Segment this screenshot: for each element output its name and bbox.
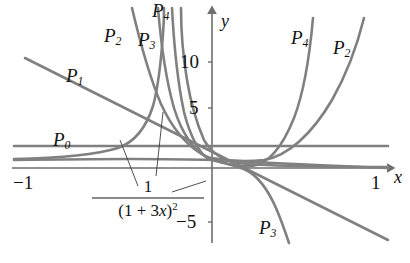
curve-label-P2-left: P2 bbox=[104, 26, 122, 48]
taylor-polynomial-figure: 10 5 −5 −1 1 x y P0 P1 P2 P3 P4 P2 P3 P4… bbox=[0, 0, 410, 263]
curve-P3-left bbox=[158, 8, 212, 159]
formula-denominator-prefix: (1 + 3 bbox=[118, 201, 159, 220]
formula-denominator-variable: x bbox=[159, 201, 167, 220]
curve-label-P2-right: P2 bbox=[333, 38, 351, 60]
x-axis-label: x bbox=[394, 168, 402, 186]
y-tick-label-10: 10 bbox=[180, 52, 199, 71]
function-formula: 1 (1 + 3x)2 bbox=[92, 178, 204, 219]
curve-label-P4-top: P4 bbox=[152, 1, 170, 23]
curve-label-P1: P1 bbox=[66, 66, 84, 88]
formula-denominator-exponent: 2 bbox=[172, 200, 177, 212]
x-tick-label-1: 1 bbox=[371, 173, 381, 192]
curve-label-P4-right: P4 bbox=[291, 28, 309, 50]
curve-near-axis-band bbox=[14, 159, 388, 168]
formula-numerator: 1 bbox=[92, 178, 204, 196]
curve-P3-right bbox=[212, 159, 289, 243]
y-tick-label-5: 5 bbox=[189, 98, 199, 117]
x-tick-label-minus1: −1 bbox=[13, 173, 33, 192]
formula-fraction-bar bbox=[92, 197, 204, 199]
formula-denominator: (1 + 3x)2 bbox=[92, 201, 204, 219]
y-axis-label: y bbox=[221, 12, 229, 30]
curve-P4-left bbox=[172, 8, 212, 160]
curve-label-P3-left: P3 bbox=[138, 30, 156, 52]
curve-label-P0: P0 bbox=[53, 130, 71, 152]
leader-line-right bbox=[156, 112, 163, 176]
curve-label-P3-right: P3 bbox=[259, 218, 277, 240]
